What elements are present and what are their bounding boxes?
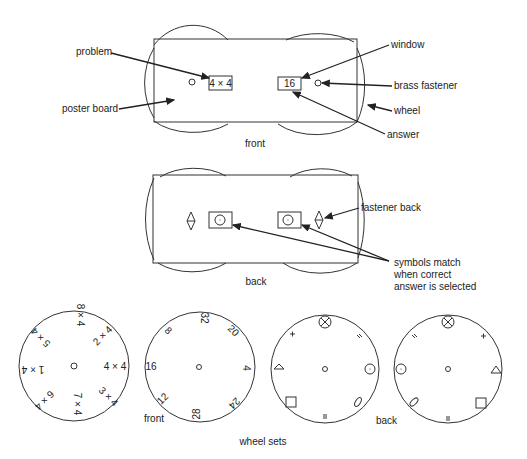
label-wheel: wheel	[393, 105, 420, 116]
wheel-back-caption: back	[376, 415, 398, 426]
svg-text:32: 32	[199, 312, 210, 324]
svg-text:28: 28	[191, 408, 202, 420]
right-wheel-top-arc	[286, 34, 354, 42]
wheel-front-caption: front	[144, 413, 164, 424]
label-brass-fastener: brass fastener	[394, 80, 458, 91]
right-fastener	[315, 80, 321, 86]
front-assembly: 4 × 4 16 problem poster board window bra…	[62, 25, 458, 149]
svg-text:3 × 4: 3 × 4	[97, 385, 121, 409]
back-assembly: fastener back symbols match when correct…	[146, 168, 477, 292]
label-problem: problem	[76, 46, 112, 57]
label-answer: answer	[387, 129, 420, 140]
label-poster-board: poster board	[62, 103, 118, 114]
wheel-sets-caption: wheel sets	[238, 436, 286, 447]
svg-text:2 × 4: 2 × 4	[91, 323, 115, 347]
svg-text:20: 20	[226, 323, 242, 339]
label-window: window	[390, 39, 425, 50]
back-wheel-left	[271, 315, 379, 423]
svg-text:16: 16	[145, 361, 157, 372]
label-symbols-1: symbols match	[394, 257, 461, 268]
left-wheel-left-arc	[145, 48, 154, 118]
label-fastener-back: fastener back	[361, 202, 422, 213]
poster-board	[154, 39, 357, 122]
front-caption: front	[245, 138, 265, 149]
svg-text:7 × 4: 7 × 4	[72, 393, 83, 416]
svg-text:4 × 4: 4 × 4	[104, 361, 127, 372]
svg-text:6 × 4: 6 × 4	[32, 389, 56, 413]
svg-text:8 × 4: 8 × 4	[75, 304, 86, 327]
svg-text:8: 8	[163, 325, 175, 337]
problem-text: 4 × 4	[209, 78, 232, 89]
right-wheel-bottom-arc	[278, 122, 357, 135]
label-symbols-2: when correct	[393, 269, 451, 280]
label-symbols-3: answer is selected	[394, 281, 476, 292]
back-board	[153, 175, 358, 263]
left-fastener	[189, 79, 195, 85]
svg-text:4: 4	[241, 365, 252, 371]
left-wheel-top-arc	[154, 25, 228, 45]
answer-wheel: 32 20 4 24 28 12 16 8	[145, 312, 255, 422]
left-wheel-bottom-arc	[154, 121, 228, 132]
problem-wheel: 8 × 4 2 × 4 4 × 4 3 × 4 7 × 4 6 × 4 1 × …	[19, 304, 129, 421]
answer-text: 16	[284, 78, 296, 89]
svg-text:1 × 4: 1 × 4	[21, 364, 44, 375]
svg-text:24: 24	[226, 396, 242, 412]
back-wheel-right	[394, 315, 502, 423]
back-caption: back	[245, 276, 267, 287]
svg-text:12: 12	[155, 390, 171, 406]
svg-text:5 × 4: 5 × 4	[28, 325, 52, 349]
back-window-right	[278, 212, 301, 228]
